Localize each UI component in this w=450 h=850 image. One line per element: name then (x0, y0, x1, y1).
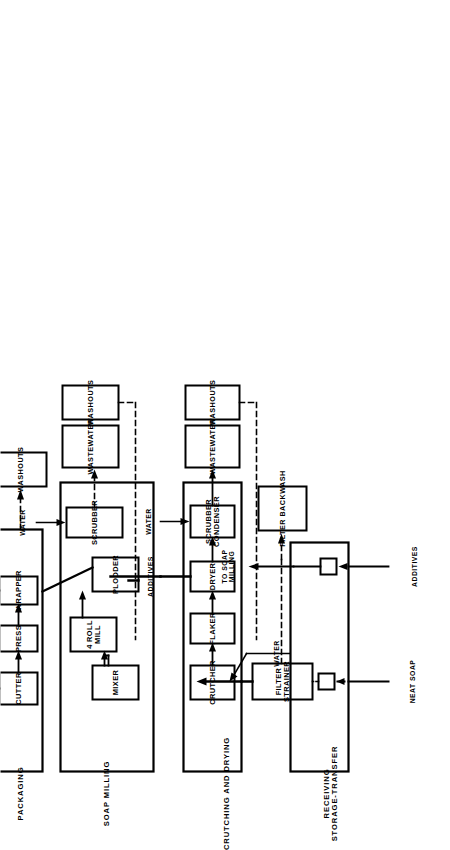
waste-filter-backwash: FILTER BACKWASH (278, 470, 286, 546)
unit-flaker[interactable]: FLAKER (208, 612, 216, 644)
input-neat-soap: NEAT SOAP (408, 659, 415, 703)
unit-crutcher[interactable]: CRUTCHER (208, 660, 216, 705)
waste-washouts-soap-milling: WASHOUTS (86, 379, 94, 425)
input-water-crutching: WATER (144, 508, 151, 535)
unit-cutter[interactable]: CUTTER (14, 672, 22, 704)
waste-wastewater-crutching: WASTEWATER (208, 418, 216, 474)
unit-dryer[interactable]: DRYER (208, 562, 216, 590)
section-label-packaging: PACKAGING (16, 766, 24, 820)
input-additives-crutching: ADDITIVES (146, 556, 153, 597)
waste-wastewater-soap-milling: WASTEWATER (86, 418, 94, 474)
section-label-receiving-storage-transfer: RECEIVING STORAGE-TRANSFER (322, 745, 338, 841)
unit-plodder[interactable]: PLODDER (111, 555, 119, 594)
unit-mixer[interactable]: MIXER (111, 669, 119, 694)
input-water-receiving: WATER (272, 640, 279, 667)
input-water-soap-milling: WATER (18, 509, 25, 536)
output-to-soap-milling: TO SOAP MILLING (221, 549, 235, 583)
section-label-soap-milling: SOAP MILLING (102, 760, 110, 826)
unit-four-roll-mill[interactable]: 4 ROLL MILL (85, 620, 101, 649)
input-additives-receiving: ADDITIVES (410, 546, 417, 587)
unit-scrubber[interactable]: SCRUBBER (90, 499, 98, 544)
unit-scrubber-condenser[interactable]: SCRUBBER CONDENSER (204, 496, 220, 547)
waste-washouts-crutching: WASHOUTS (208, 379, 216, 425)
unit-wrapper[interactable]: WRAPPER (14, 570, 22, 611)
section-label-crutching-and-drying: CRUTCHING AND DRYING (222, 736, 230, 849)
waste-washouts-packaging: WASHOUTS (16, 446, 24, 492)
unit-press[interactable]: PRESS (14, 624, 22, 651)
